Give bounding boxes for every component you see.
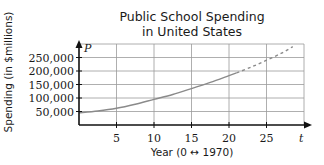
y-variable-label: P [83, 42, 92, 55]
chart-title: Public School Spending in United States [119, 9, 264, 39]
y-tick-label: 50,000 [36, 106, 75, 119]
y-tick-label: 150,000 [29, 79, 75, 92]
chart-title-line-2: in United States [142, 24, 242, 39]
grid [79, 44, 304, 125]
y-tick-labels: 50,000100,000150,000200,000250,000 [29, 52, 75, 119]
x-tick-label: 15 [185, 132, 199, 145]
y-tick-label: 100,000 [29, 92, 75, 105]
projected-line [237, 47, 293, 73]
y-axis-label: Spending (in $millions) [2, 12, 14, 133]
x-tick-labels: 510152025 [113, 132, 274, 145]
x-tick-label: 25 [260, 132, 274, 145]
data-series [79, 47, 293, 113]
x-axis-label: Year (0 ↔ 1970) [150, 146, 234, 158]
y-tick-label: 200,000 [29, 65, 75, 78]
x-axis-arrow-icon [304, 122, 312, 129]
x-tick-label: 5 [113, 132, 120, 145]
x-tick-label: 10 [147, 132, 161, 145]
chart: Public School Spending in United States … [0, 0, 324, 165]
y-tick-label: 250,000 [29, 52, 75, 65]
actual-line [79, 73, 237, 113]
chart-title-line-1: Public School Spending [119, 9, 264, 24]
x-tick-label: 20 [222, 132, 236, 145]
x-variable-label: t [299, 132, 304, 145]
